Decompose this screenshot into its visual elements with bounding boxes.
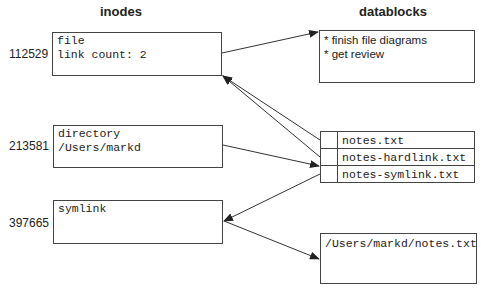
- arrow-directory-to-datablock: [223, 145, 319, 166]
- arrow-symlink-to-datablock: [224, 221, 319, 259]
- arrow-hardlink-to-file-inode: [223, 76, 320, 157]
- arrow-file-to-datablock: [222, 32, 318, 53]
- arrow-symlink-entry-to-symlink-inode: [224, 174, 320, 221]
- arrow-notes-to-file-inode: [223, 76, 320, 140]
- arrows-layer: [0, 0, 483, 290]
